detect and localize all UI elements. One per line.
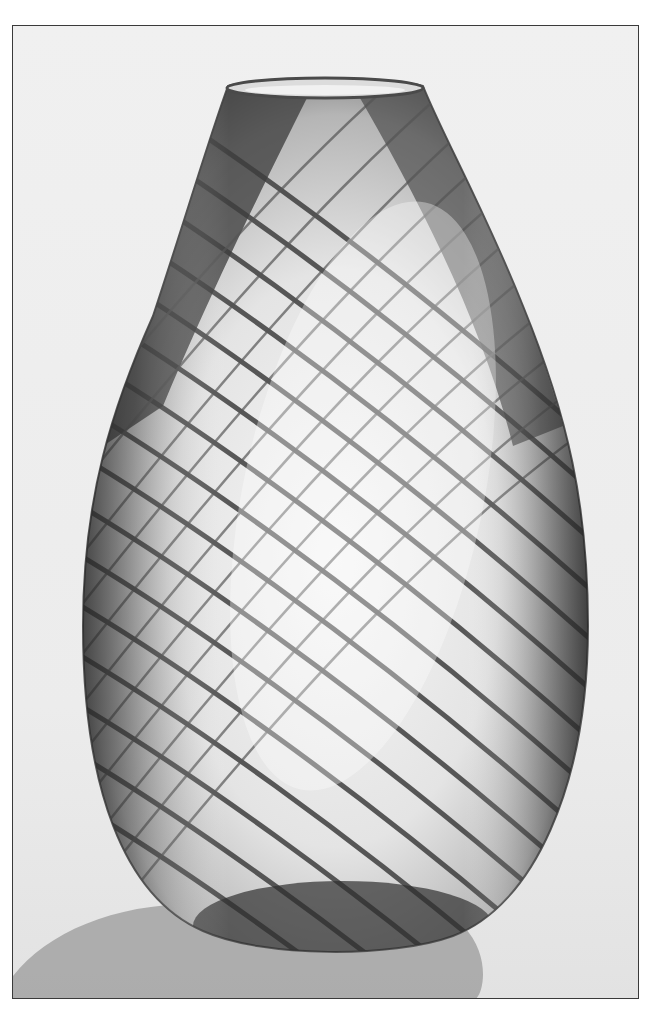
vase-photograph <box>13 26 639 999</box>
photo-frame <box>12 25 639 999</box>
